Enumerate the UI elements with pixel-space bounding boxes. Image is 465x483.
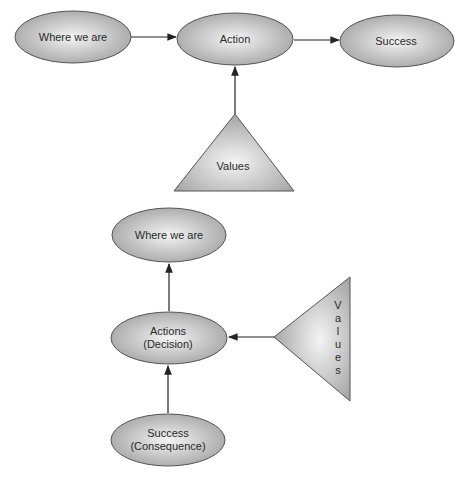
values-letter: V — [334, 299, 342, 311]
node-label-line1: Actions — [150, 325, 187, 337]
node-label-line2: (Consequence) — [130, 440, 205, 452]
node-where-we-are-bottom: Where we are — [112, 208, 226, 262]
node-success: Success — [340, 15, 454, 67]
values-letter: u — [335, 338, 341, 350]
top-diagram: Where we are Action Success Values — [15, 11, 454, 191]
values-triangle-side: V a l u e s — [274, 277, 350, 401]
node-label-line1: Success — [147, 427, 189, 439]
values-label: Values — [217, 160, 250, 172]
node-action: Action — [177, 13, 293, 65]
values-triangle: Values — [174, 114, 294, 191]
values-letter: e — [335, 351, 341, 363]
values-letter: l — [337, 325, 339, 337]
node-success-consequence: Success (Consequence) — [111, 414, 225, 466]
node-label-line2: (Decision) — [143, 338, 193, 350]
bottom-diagram: Where we are Actions (Decision) Success … — [111, 208, 350, 466]
node-label: Action — [220, 33, 251, 45]
values-letter: a — [335, 312, 342, 324]
node-label: Success — [375, 35, 417, 47]
node-label: Where we are — [39, 31, 107, 43]
node-label: Where we are — [135, 229, 203, 241]
values-letter: s — [335, 364, 341, 376]
diagram-canvas: Where we are Action Success Values Where… — [0, 0, 465, 483]
node-where-we-are: Where we are — [15, 11, 131, 63]
node-actions-decision: Actions (Decision) — [111, 312, 227, 364]
